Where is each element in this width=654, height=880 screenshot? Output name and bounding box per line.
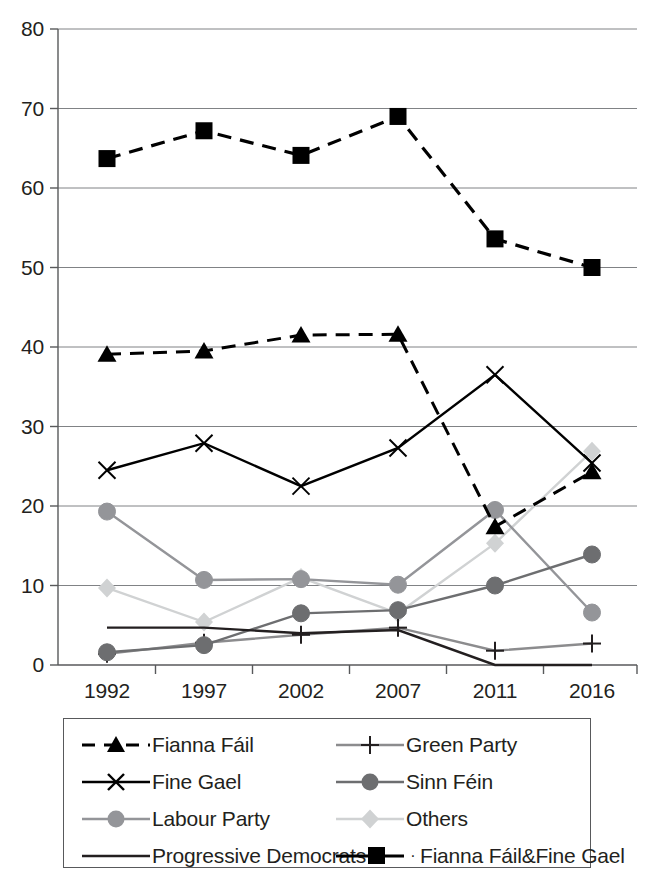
series-green-party: [98, 619, 601, 663]
marker-circle: [293, 605, 310, 622]
marker-square: [99, 150, 116, 167]
legend-key-icon: [80, 765, 152, 799]
ytick-label-40: 40: [0, 336, 44, 357]
marker-triangle: [292, 326, 311, 343]
legend-item-green-party[interactable]: Green Party: [334, 728, 517, 762]
series-others: [98, 442, 601, 632]
legend-key-icon: [334, 765, 406, 799]
ytick-label-30: 30: [0, 416, 44, 437]
marker-square: [487, 230, 504, 247]
marker-square: [196, 122, 213, 139]
chart-root: 0102030405060708019921997200220072011201…: [0, 0, 654, 880]
ytick-label-20: 20: [0, 495, 44, 516]
legend-dot-marker: ·: [406, 845, 420, 867]
marker-circle: [99, 503, 116, 520]
marker-cross-x: [487, 366, 504, 383]
marker-circle: [293, 571, 310, 588]
marker-circle: [196, 571, 213, 588]
marker-circle: [196, 637, 213, 654]
ytick-label-0: 0: [0, 654, 44, 675]
marker-plus: [389, 619, 407, 637]
legend-item-fianna-f-il[interactable]: Fianna Fáil: [80, 728, 254, 762]
ytick-label-10: 10: [0, 575, 44, 596]
series-line: [107, 554, 592, 652]
legend-item-sinn-f-in[interactable]: Sinn Féin: [334, 765, 493, 799]
marker-circle: [99, 644, 116, 661]
legend-key-icon: [334, 728, 406, 762]
legend-label: Labour Party: [152, 808, 270, 830]
legend-key-icon: [80, 802, 152, 836]
legend-item-fianna-f-ilandfine-gael[interactable]: ·Fianna Fáil&Fine Gael: [334, 839, 625, 873]
chart-legend: Fianna FáilGreen PartyFine GaelSinn Féin…: [63, 718, 591, 868]
marker-diamond: [98, 578, 116, 597]
legend-key-icon: [334, 839, 406, 873]
legend-label: Fianna Fáil&Fine Gael: [420, 845, 625, 867]
legend-item-fine-gael[interactable]: Fine Gael: [80, 765, 241, 799]
marker-cross-x: [390, 439, 407, 456]
xtick-label-1997: 1997: [159, 680, 249, 701]
xtick-label-2007: 2007: [353, 680, 443, 701]
marker-cross-x: [196, 435, 213, 452]
marker-circle: [584, 604, 601, 621]
xtick-label-2002: 2002: [256, 680, 346, 701]
legend-key-icon: [80, 728, 152, 762]
marker-cross-x: [99, 462, 116, 479]
ytick-label-60: 60: [0, 177, 44, 198]
marker-triangle: [486, 518, 505, 535]
series-line: [107, 510, 592, 613]
legend-item-labour-party[interactable]: Labour Party: [80, 802, 270, 836]
series-line: [107, 334, 592, 526]
marker-square: [584, 259, 601, 276]
marker-plus: [486, 642, 504, 660]
legend-label: Fine Gael: [152, 771, 241, 793]
series-fianna-f-il-fine-gael: [99, 108, 601, 276]
xtick-label-2011: 2011: [450, 680, 540, 701]
marker-circle: [487, 577, 504, 594]
marker-square: [293, 147, 310, 164]
ytick-label-70: 70: [0, 98, 44, 119]
series-sinn-f-in: [99, 546, 601, 661]
legend-label: Green Party: [406, 734, 517, 756]
line-chart-svg: [0, 0, 654, 710]
marker-circle: [390, 602, 407, 619]
legend-key-icon: [334, 802, 406, 836]
legend-label: Others: [406, 808, 468, 830]
xtick-label-1992: 1992: [62, 680, 152, 701]
legend-label: Fianna Fáil: [152, 734, 254, 756]
marker-circle: [584, 546, 601, 563]
marker-cross-x: [293, 478, 310, 495]
legend-label: Sinn Féin: [406, 771, 493, 793]
marker-plus: [583, 635, 601, 653]
series-line: [107, 375, 592, 486]
xtick-label-2016: 2016: [547, 680, 637, 701]
ytick-label-80: 80: [0, 18, 44, 39]
legend-item-progressive-democrats[interactable]: Progressive Democrats: [80, 839, 366, 873]
marker-plus: [292, 626, 310, 644]
legend-key-icon: [80, 839, 152, 873]
series-fine-gael: [99, 366, 601, 494]
series-fianna-f-il: [98, 325, 602, 534]
series-labour-party: [99, 501, 601, 621]
legend-item-others[interactable]: Others: [334, 802, 468, 836]
marker-square: [390, 108, 407, 125]
ytick-label-50: 50: [0, 257, 44, 278]
series-line: [107, 116, 592, 267]
marker-circle: [390, 576, 407, 593]
plot-area: 0102030405060708019921997200220072011201…: [0, 0, 654, 710]
